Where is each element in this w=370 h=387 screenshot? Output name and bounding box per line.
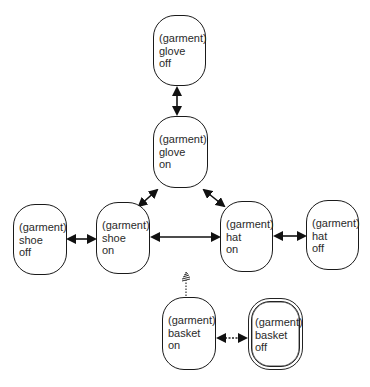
node-label-line: off [19,246,66,259]
node-label-line: off [312,242,358,255]
node-label-line: basket [255,329,299,342]
node-label-line: shoe [102,232,149,245]
node-label-line: glove [159,146,207,159]
node-label-line: (garment) [312,217,358,230]
node-label-line: hat [226,231,272,244]
node-label-line: on [168,339,215,352]
node-label-line: (garment) [159,133,207,146]
hatched-arrowhead-icon [182,273,190,282]
node-label-line: (garment) [226,218,272,231]
node-glove-on: (garment) glove on [153,116,208,188]
node-label-line: off [255,341,299,354]
node-label-line: shoe [19,234,66,247]
node-hat-on: (garment) hat on [220,201,273,272]
node-glove-off: (garment) glove off [153,15,206,86]
node-basket-off: (garment) basket off [248,298,303,370]
node-label-line: off [159,57,205,70]
node-shoe-off: (garment) shoe off [13,204,67,275]
node-label-line: on [226,243,272,256]
node-label-line: (garment) [168,314,215,327]
node-label-line: glove [159,45,205,58]
node-label-line: (garment) [159,32,205,45]
node-label-line: on [159,158,207,171]
node-shoe-on: (garment) shoe on [96,202,150,274]
node-hat-off: (garment) hat off [306,200,359,270]
node-label-line: (garment) [102,219,149,232]
edge-glove-on-hat-on [204,190,224,206]
node-label-line: on [102,244,149,257]
node-basket-on: (garment) basket on [162,297,216,370]
node-label-line: hat [312,230,358,243]
node-label-line: (garment) [19,221,66,234]
edge-glove-on-shoe-on [139,190,157,206]
node-label-line: (garment) [255,316,299,329]
node-label-line: basket [168,327,215,340]
